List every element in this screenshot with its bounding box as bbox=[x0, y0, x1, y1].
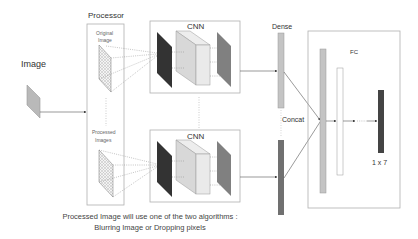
original-image-label-line1: Original bbox=[96, 31, 113, 36]
fc-bar-1 bbox=[320, 49, 326, 193]
cnn-bottom-layers bbox=[157, 140, 231, 197]
fc-label: FC bbox=[350, 49, 358, 55]
caption-line-1: Processed Image will use one of the two … bbox=[0, 213, 300, 221]
cnn-top-label: CNN bbox=[187, 23, 204, 31]
arrow-dense-to-fc bbox=[284, 72, 320, 120]
original-image-label-line2: Image bbox=[98, 38, 112, 43]
dense-label: Dense bbox=[272, 23, 292, 30]
processed-images-icon bbox=[99, 150, 113, 197]
cnn-bottom-label: CNN bbox=[187, 133, 204, 141]
image-label: Image bbox=[21, 60, 46, 69]
concat-label: Concat bbox=[282, 116, 304, 123]
original-image-icon bbox=[99, 45, 111, 92]
processor-label: Processor bbox=[88, 12, 124, 20]
diagram-graphics bbox=[0, 0, 418, 239]
input-image-icon bbox=[27, 85, 40, 118]
processed-images-label-line2: Images bbox=[95, 138, 111, 143]
output-bar bbox=[378, 90, 384, 153]
processed-images-label-line1: Processed bbox=[92, 130, 116, 135]
dense-bar bbox=[278, 33, 284, 108]
caption-line-2: Blurring Image or Dropping pixels bbox=[0, 224, 300, 232]
fc-bar-2 bbox=[337, 68, 343, 175]
output-shape-label: 1 x 7 bbox=[372, 159, 387, 166]
cnn-top-layers bbox=[157, 31, 231, 88]
concat-bar bbox=[278, 140, 284, 215]
architecture-diagram: Image Processor Original Image Processed… bbox=[0, 0, 418, 239]
arrow-concat-to-fc bbox=[284, 122, 320, 178]
